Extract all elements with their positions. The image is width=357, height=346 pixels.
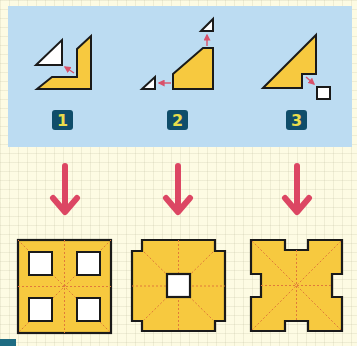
step-1-badge: 1 bbox=[52, 110, 73, 130]
step-3-cut-square bbox=[317, 87, 330, 99]
result-3-unfolded-shape bbox=[251, 240, 342, 331]
hole-bottom-left bbox=[29, 298, 52, 321]
paper-folding-diagram: 1 2 3 bbox=[0, 0, 357, 346]
step-2-badge: 2 bbox=[167, 110, 188, 130]
step-1-badge-label: 1 bbox=[57, 111, 68, 130]
hole-bottom-right bbox=[77, 298, 100, 321]
result-2-unfolded-shape bbox=[132, 240, 225, 331]
corner-tab-decoration bbox=[0, 339, 16, 346]
center-hole bbox=[167, 274, 190, 297]
down-arrow-1 bbox=[53, 166, 77, 212]
result-1-unfolded-shape bbox=[18, 240, 111, 333]
down-arrow-2 bbox=[166, 166, 190, 212]
hole-top-left bbox=[29, 252, 52, 275]
step-2-badge-label: 2 bbox=[172, 111, 183, 130]
down-arrow-3 bbox=[285, 166, 309, 212]
hole-top-right bbox=[77, 252, 100, 275]
step-3-badge-label: 3 bbox=[291, 111, 302, 130]
step-3-badge: 3 bbox=[286, 110, 307, 130]
